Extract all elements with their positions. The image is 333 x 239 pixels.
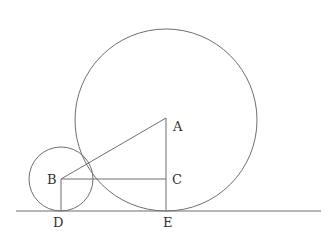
- label-A: A: [172, 119, 183, 134]
- label-B: B: [47, 172, 57, 187]
- label-D: D: [53, 215, 63, 230]
- label-C: C: [172, 172, 182, 187]
- segment-AB: [61, 118, 166, 179]
- geometry-diagram: A B C D E: [0, 0, 333, 239]
- label-E: E: [163, 215, 173, 230]
